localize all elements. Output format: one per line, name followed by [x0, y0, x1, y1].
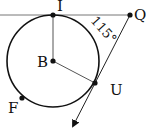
angle-label: 115°	[88, 13, 120, 46]
point-b	[50, 58, 55, 63]
point-u	[92, 80, 97, 85]
label-u: U	[110, 81, 123, 99]
point-q	[127, 12, 132, 17]
label-i: I	[57, 0, 63, 15]
label-f: F	[8, 99, 18, 117]
point-i	[50, 12, 55, 17]
radius-bu	[53, 61, 95, 83]
label-b: B	[37, 53, 48, 71]
label-q: Q	[134, 6, 146, 24]
point-f	[19, 95, 24, 100]
geometry-diagram: I Q B U F 115°	[0, 0, 146, 140]
